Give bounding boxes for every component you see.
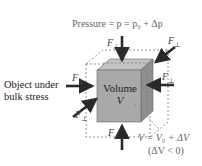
object-label-line2: bulk stress <box>4 91 59 103</box>
volume-equation: V = V₀ + ΔV <box>138 133 189 143</box>
force-label-right: F⊥ <box>162 72 175 85</box>
object-label-line1: Object under <box>4 79 59 91</box>
cube-label-line2: V <box>98 94 142 106</box>
pressure-equation: Pressure = p = p₀ + Δp <box>72 19 163 29</box>
volume-condition: (ΔV < 0) <box>148 146 184 156</box>
force-label-top: F⊥ <box>107 38 120 51</box>
cube-label: Volume V <box>98 82 142 106</box>
object-label: Object under bulk stress <box>4 79 59 103</box>
force-label-bottom-left: F⊥ <box>75 110 88 123</box>
force-arrow-top-right <box>156 47 175 62</box>
force-label-top-right: F⊥ <box>168 36 181 49</box>
cube-label-line1: Volume <box>98 82 142 94</box>
force-label-bottom: F⊥ <box>108 128 121 141</box>
force-label-left: F⊥ <box>72 73 85 86</box>
